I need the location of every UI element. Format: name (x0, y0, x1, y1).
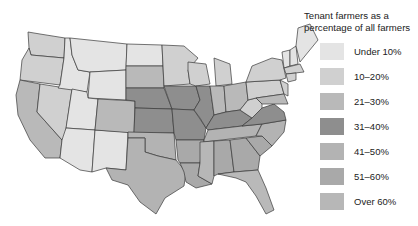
legend-swatch (320, 68, 344, 85)
legend-swatch (320, 143, 344, 160)
legend-item-10-20: 10–20% (304, 64, 418, 89)
state-az (60, 128, 95, 172)
state-wi (188, 62, 210, 86)
legend: Tenant farmers as a percentage of all fa… (304, 10, 418, 214)
state-ms (198, 141, 214, 184)
legend-title: Tenant farmers as a percentage of all fa… (304, 10, 418, 33)
legend-swatch (320, 193, 344, 210)
legend-swatch (320, 168, 344, 185)
state-mi (214, 58, 232, 86)
legend-item-31-40: 31–40% (304, 114, 418, 139)
state-nm (92, 130, 128, 172)
legend-label: 21–30% (354, 96, 389, 107)
state-mt (70, 38, 127, 72)
legend-label: Over 60% (354, 196, 396, 207)
legend-item-41-50: 41–50% (304, 139, 418, 164)
legend-title-line2: percentage of all farmers (304, 22, 418, 34)
state-ny (246, 58, 286, 82)
legend-label: 41–50% (354, 146, 389, 157)
legend-title-line1: Tenant farmers as a (304, 10, 418, 22)
state-wy (88, 70, 126, 100)
state-nd (126, 44, 163, 66)
legend-label: 10–20% (354, 71, 389, 82)
legend-swatch (320, 93, 344, 110)
legend-item-under-10: Under 10% (304, 39, 418, 64)
legend-item-over-60: Over 60% (304, 189, 418, 214)
legend-swatch (320, 43, 344, 60)
legend-item-51-60: 51–60% (304, 164, 418, 189)
state-co (95, 99, 135, 133)
legend-label: Under 10% (354, 46, 402, 57)
state-sd (126, 66, 164, 88)
legend-label: 51–60% (354, 171, 389, 182)
state-ks (134, 108, 174, 133)
legend-label: 31–40% (354, 121, 389, 132)
state-wa (28, 32, 65, 58)
state-ct (286, 73, 296, 82)
legend-item-21-30: 21–30% (304, 89, 418, 114)
legend-swatch (320, 118, 344, 135)
state-fl (218, 170, 274, 214)
